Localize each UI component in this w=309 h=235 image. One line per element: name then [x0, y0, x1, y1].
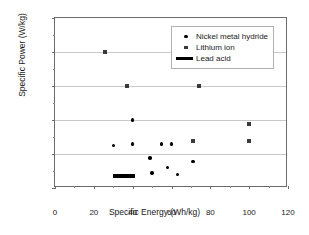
x-tick-label: 60 [157, 209, 187, 217]
data-point [103, 50, 107, 54]
x-tick-minor [269, 186, 270, 188]
x-tick [172, 186, 173, 189]
gridline [55, 154, 286, 155]
x-tick-label: 20 [79, 209, 109, 217]
y-tick [52, 52, 55, 53]
data-point [170, 142, 173, 145]
data-point [125, 84, 129, 88]
legend-item-nickel-metal-hydride: Nickel metal hydride [176, 31, 268, 42]
y-tick [52, 86, 55, 87]
legend-label: Nickel metal hydride [196, 32, 268, 41]
data-point [191, 139, 195, 143]
y-tick-minor [53, 103, 55, 104]
y-tick [52, 120, 55, 121]
chart-figure: Specific Power (W/kg) Specific Energy (W… [0, 0, 309, 235]
square-marker-icon [176, 46, 196, 50]
x-tick-label: 80 [195, 209, 225, 217]
dot-marker-icon [176, 35, 196, 38]
legend-label: Lead acid [196, 54, 231, 63]
x-tick [210, 186, 211, 189]
legend-item-lead-acid: Lead acid [176, 53, 268, 64]
legend-label: Lithium ion [196, 43, 235, 52]
data-point [197, 84, 201, 88]
x-tick-label: 120 [273, 209, 303, 217]
y-tick-minor [53, 35, 55, 36]
data-point [191, 160, 194, 163]
y-axis-title: Specific Power (W/kg) [17, 0, 27, 115]
data-point [247, 139, 251, 143]
x-tick [288, 186, 289, 189]
x-tick [94, 186, 95, 189]
gridline [55, 120, 286, 121]
y-tick-minor [53, 69, 55, 70]
chart-legend: Nickel metal hydride Lithium ion Lead ac… [171, 26, 274, 69]
lead-acid-bar [113, 174, 134, 178]
x-tick-minor [152, 186, 153, 188]
data-point [160, 142, 163, 145]
data-point [131, 142, 134, 145]
legend-item-lithium-ion: Lithium ion [176, 42, 268, 53]
y-tick-minor [53, 137, 55, 138]
data-point [176, 173, 179, 176]
gridline [55, 86, 286, 87]
data-point [247, 122, 251, 126]
x-tick-minor [113, 186, 114, 188]
data-point [148, 156, 151, 159]
x-tick-minor [191, 186, 192, 188]
x-tick-minor [74, 186, 75, 188]
plot-area: 05001000150020002500 020406080100120 Nic… [54, 17, 287, 187]
data-point [166, 166, 169, 169]
data-point [150, 171, 153, 174]
x-tick-label: 40 [118, 209, 148, 217]
x-tick-label: 0 [40, 209, 70, 217]
y-tick [52, 154, 55, 155]
y-tick-minor [53, 171, 55, 172]
data-point [131, 118, 134, 121]
data-point [112, 144, 115, 147]
x-tick-label: 100 [234, 209, 264, 217]
x-tick [55, 186, 56, 189]
x-tick-minor [230, 186, 231, 188]
y-tick [52, 18, 55, 19]
x-tick [249, 186, 250, 189]
line-marker-icon [176, 57, 196, 60]
x-tick [133, 186, 134, 189]
